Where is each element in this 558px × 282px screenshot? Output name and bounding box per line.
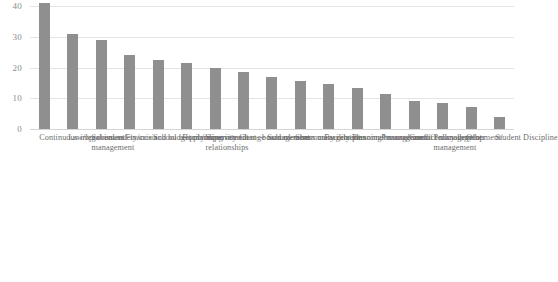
y-axis-tick-label: 30: [13, 32, 22, 42]
bar[interactable]: [352, 88, 363, 130]
y-axis-tick-label: 20: [13, 63, 22, 73]
x-label-slot: Stress management: [286, 131, 314, 279]
x-label-slot: Policy development/management: [429, 131, 457, 279]
x-label-slot: Other: [457, 131, 485, 279]
bar-series: [30, 6, 514, 129]
bar-slot: [315, 6, 343, 129]
bar[interactable]: [238, 72, 249, 129]
bar-slot: [229, 6, 257, 129]
x-label-slot: Personal use of technology: [372, 131, 400, 279]
bar-slot: [258, 6, 286, 129]
y-axis-tick-label: 40: [13, 1, 22, 11]
x-axis-line: [30, 129, 514, 130]
bar-slot: [286, 6, 314, 129]
x-label-slot: Facility planning/management: [315, 131, 343, 279]
bar-slot: [400, 6, 428, 129]
bar[interactable]: [266, 77, 277, 129]
x-axis-category-label: Student Discipline: [495, 133, 558, 143]
x-axis-category-label: Other: [467, 133, 486, 143]
y-axis-tick-label: 10: [13, 93, 22, 103]
bar[interactable]: [409, 101, 420, 129]
x-label-slot: Law/legal issues: [58, 131, 86, 279]
bar[interactable]: [124, 55, 135, 129]
bar[interactable]: [210, 68, 221, 130]
y-axis-tick-labels: 010203040: [0, 6, 26, 129]
x-label-slot: Personnel management: [343, 131, 371, 279]
bar[interactable]: [181, 63, 192, 129]
x-axis-category-label-line: Other: [467, 133, 486, 143]
bar-slot: [172, 6, 200, 129]
bar[interactable]: [437, 103, 448, 129]
bar-slot: [429, 6, 457, 129]
bar[interactable]: [494, 117, 505, 129]
x-axis-category-label-line: Student Discipline: [495, 133, 558, 143]
bar-slot: [144, 6, 172, 129]
x-axis-category-labels: Continuous improvementLaw/legal issuesSc…: [30, 131, 514, 279]
bar[interactable]: [380, 94, 391, 129]
x-label-slot: Superintendent--board memberrelationship…: [201, 131, 229, 279]
bar-slot: [115, 6, 143, 129]
bar[interactable]: [96, 40, 107, 129]
bar-slot: [343, 6, 371, 129]
bar-slot: [372, 6, 400, 129]
x-label-slot: School reform/improvement: [144, 131, 172, 279]
bar[interactable]: [466, 107, 477, 129]
x-label-slot: School safety/crisismanagement: [87, 131, 115, 279]
bar-slot: [201, 6, 229, 129]
x-label-slot: Finance and budget planning: [115, 131, 143, 279]
bar-slot: [486, 6, 514, 129]
y-axis-tick-label: 0: [17, 124, 22, 134]
x-label-slot: Student Discipline: [486, 131, 514, 279]
bar[interactable]: [295, 81, 306, 129]
x-label-slot: Continuous improvement: [30, 131, 58, 279]
x-label-slot: Change management: [229, 131, 257, 279]
bar-slot: [30, 6, 58, 129]
bar[interactable]: [153, 60, 164, 129]
bar[interactable]: [67, 34, 78, 129]
bar-slot: [58, 6, 86, 129]
x-label-slot: Equity/diversity: [172, 131, 200, 279]
x-label-slot: School--community relations: [258, 131, 286, 279]
bar-slot: [457, 6, 485, 129]
x-label-slot: Conflict management: [400, 131, 428, 279]
plot-area: [30, 6, 514, 129]
bar[interactable]: [323, 84, 334, 129]
bar-slot: [87, 6, 115, 129]
bar[interactable]: [39, 3, 50, 129]
